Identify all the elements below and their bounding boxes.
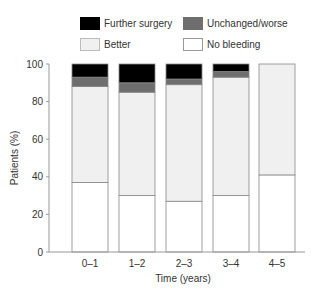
x-tick-label: 1–2 — [129, 258, 146, 269]
bar-segment-no-bleeding — [72, 182, 108, 252]
bar-segment-unchanged-worse — [213, 72, 249, 78]
y-tick-label: 20 — [32, 209, 44, 220]
bar-segment-further-surgery — [166, 64, 202, 79]
y-tick-label: 80 — [32, 96, 44, 107]
y-axis-title: Patients (%) — [9, 131, 20, 185]
y-tick-label: 60 — [32, 134, 44, 145]
x-tick-label: 2–3 — [176, 258, 193, 269]
bar-segment-further-surgery — [213, 64, 249, 72]
bar-segment-further-surgery — [72, 64, 108, 77]
stacked-bar-chart: 020406080100 0–11–22–33–44–5 Patients (%… — [0, 0, 319, 299]
bar-segment-no-bleeding — [119, 196, 155, 252]
bars — [72, 64, 295, 252]
x-axis-title: Time (years) — [155, 273, 211, 284]
bar-segment-better — [166, 85, 202, 202]
bar-segment-better — [213, 77, 249, 195]
bar-segment-no-bleeding — [166, 201, 202, 252]
bar-segment-better — [259, 64, 295, 175]
y-tick-label: 0 — [37, 247, 43, 258]
x-tick-label: 4–5 — [269, 258, 286, 269]
bar-segment-no-bleeding — [259, 175, 295, 252]
y-axis: 020406080100 — [26, 59, 49, 258]
y-tick-label: 100 — [26, 59, 43, 70]
x-tick-label: 0–1 — [82, 258, 99, 269]
bar-segment-unchanged-worse — [166, 79, 202, 85]
bar-3–4 — [213, 64, 249, 252]
bar-segment-better — [72, 87, 108, 183]
bar-segment-further-surgery — [119, 64, 155, 83]
bar-segment-no-bleeding — [213, 196, 249, 252]
bar-segment-unchanged-worse — [119, 83, 155, 92]
y-tick-label: 40 — [32, 171, 44, 182]
x-tick-label: 3–4 — [223, 258, 240, 269]
bar-0–1 — [72, 64, 108, 252]
bar-4–5 — [259, 64, 295, 252]
bar-segment-better — [119, 92, 155, 195]
x-axis: 0–11–22–33–44–5 — [49, 252, 305, 269]
bar-segment-unchanged-worse — [72, 77, 108, 86]
bar-2–3 — [166, 64, 202, 252]
bar-1–2 — [119, 64, 155, 252]
